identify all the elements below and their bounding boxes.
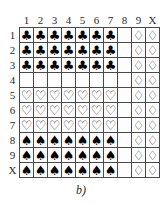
spade-suit-icon: ♠ xyxy=(104,134,117,147)
grid-cell-X-X: ♢ xyxy=(146,163,160,178)
spade-suit-icon: ♠ xyxy=(20,164,33,177)
grid-cell-4-3 xyxy=(48,73,62,88)
heart-suit-icon: ♡ xyxy=(90,89,103,102)
grid-cell-8-8 xyxy=(118,133,132,148)
club-suit-icon: ♣ xyxy=(76,44,89,57)
grid-cell-8-4: ♠ xyxy=(62,133,76,148)
heart-suit-icon: ♡ xyxy=(76,89,89,102)
column-header-2: 2 xyxy=(34,13,48,28)
grid-corner-cell xyxy=(6,13,20,28)
club-suit-icon: ♣ xyxy=(34,29,47,42)
grid-cell-1-6: ♣ xyxy=(90,28,104,43)
grid-cell-2-1: ♣ xyxy=(20,43,34,58)
grid-cell-4-1 xyxy=(20,73,34,88)
heart-suit-icon: ♡ xyxy=(104,119,117,132)
grid-cell-7-7: ♡ xyxy=(104,118,118,133)
heart-suit-icon: ♡ xyxy=(76,104,89,117)
grid-row: 7♡♡♡♡♡♡♡♢♢ xyxy=(6,118,160,133)
row-header-6: 6 xyxy=(6,103,20,118)
grid-cell-1-7: ♣ xyxy=(104,28,118,43)
grid-row: 1♣♣♣♣♣♣♣♢♢ xyxy=(6,28,160,43)
grid-cell-5-X: ♢ xyxy=(146,88,160,103)
grid-cell-9-5: ♠ xyxy=(76,148,90,163)
grid-cell-5-7: ♡ xyxy=(104,88,118,103)
grid-cell-4-5 xyxy=(76,73,90,88)
grid-cell-6-8 xyxy=(118,103,132,118)
heart-suit-icon: ♡ xyxy=(76,119,89,132)
heart-suit-icon: ♡ xyxy=(62,119,75,132)
diamond-suit-icon: ♢ xyxy=(132,134,145,147)
suit-grid-table: 123456789X 1♣♣♣♣♣♣♣♢♢2♣♣♣♣♣♣♣♢♢3♣♣♣♣♣♣♣♢… xyxy=(6,13,160,178)
spade-suit-icon: ♠ xyxy=(104,149,117,162)
grid-cell-8-5: ♠ xyxy=(76,133,90,148)
club-suit-icon: ♣ xyxy=(90,59,103,72)
diamond-suit-icon: ♢ xyxy=(132,44,145,57)
grid-cell-9-2: ♠ xyxy=(34,148,48,163)
spade-suit-icon: ♠ xyxy=(76,149,89,162)
row-header-X: X xyxy=(6,163,20,178)
diamond-suit-icon: ♢ xyxy=(132,164,145,177)
club-suit-icon: ♣ xyxy=(34,44,47,57)
grid-cell-4-7 xyxy=(104,73,118,88)
club-suit-icon: ♣ xyxy=(48,59,61,72)
diamond-suit-icon: ♢ xyxy=(132,119,145,132)
grid-cell-2-2: ♣ xyxy=(34,43,48,58)
spade-suit-icon: ♠ xyxy=(90,134,103,147)
grid-cell-3-6: ♣ xyxy=(90,58,104,73)
grid-cell-8-9: ♢ xyxy=(132,133,146,148)
grid-cell-6-3: ♡ xyxy=(48,103,62,118)
grid-row: 9♠♠♠♠♠♠♠♢♢ xyxy=(6,148,160,163)
grid-cell-6-5: ♡ xyxy=(76,103,90,118)
grid-cell-9-1: ♠ xyxy=(20,148,34,163)
spade-suit-icon: ♠ xyxy=(62,134,75,147)
grid-container: 123456789X 1♣♣♣♣♣♣♣♢♢2♣♣♣♣♣♣♣♢♢3♣♣♣♣♣♣♣♢… xyxy=(6,13,160,178)
row-header-4: 4 xyxy=(6,73,20,88)
grid-cell-1-2: ♣ xyxy=(34,28,48,43)
grid-cell-6-4: ♡ xyxy=(62,103,76,118)
grid-cell-6-7: ♡ xyxy=(104,103,118,118)
grid-cell-X-4: ♠ xyxy=(62,163,76,178)
heart-suit-icon: ♡ xyxy=(104,104,117,117)
diamond-suit-icon: ♢ xyxy=(132,29,145,42)
spade-suit-icon: ♠ xyxy=(34,164,47,177)
grid-cell-3-1: ♣ xyxy=(20,58,34,73)
grid-cell-X-6: ♠ xyxy=(90,163,104,178)
row-header-9: 9 xyxy=(6,148,20,163)
grid-cell-4-8 xyxy=(118,73,132,88)
grid-cell-1-1: ♣ xyxy=(20,28,34,43)
grid-cell-5-4: ♡ xyxy=(62,88,76,103)
club-suit-icon: ♣ xyxy=(48,29,61,42)
heart-suit-icon: ♡ xyxy=(34,89,47,102)
diamond-suit-icon: ♢ xyxy=(146,164,159,177)
grid-cell-9-8 xyxy=(118,148,132,163)
club-suit-icon: ♣ xyxy=(48,44,61,57)
spade-suit-icon: ♠ xyxy=(104,164,117,177)
grid-cell-4-9: ♢ xyxy=(132,73,146,88)
column-header-6: 6 xyxy=(90,13,104,28)
diamond-suit-icon: ♢ xyxy=(146,149,159,162)
grid-cell-7-6: ♡ xyxy=(90,118,104,133)
grid-cell-6-1: ♡ xyxy=(20,103,34,118)
grid-row: 5♡♡♡♡♡♡♡♢♢ xyxy=(6,88,160,103)
grid-cell-7-5: ♡ xyxy=(76,118,90,133)
heart-suit-icon: ♡ xyxy=(104,89,117,102)
grid-cell-4-4 xyxy=(62,73,76,88)
diamond-suit-icon: ♢ xyxy=(132,149,145,162)
grid-cell-9-X: ♢ xyxy=(146,148,160,163)
grid-cell-X-8 xyxy=(118,163,132,178)
grid-cell-2-6: ♣ xyxy=(90,43,104,58)
grid-cell-8-2: ♠ xyxy=(34,133,48,148)
grid-cell-X-7: ♠ xyxy=(104,163,118,178)
grid-cell-8-1: ♠ xyxy=(20,133,34,148)
grid-cell-3-5: ♣ xyxy=(76,58,90,73)
column-header-4: 4 xyxy=(62,13,76,28)
club-suit-icon: ♣ xyxy=(104,59,117,72)
grid-cell-5-5: ♡ xyxy=(76,88,90,103)
grid-cell-5-1: ♡ xyxy=(20,88,34,103)
column-header-8: 8 xyxy=(118,13,132,28)
grid-cell-2-X: ♢ xyxy=(146,43,160,58)
column-header-5: 5 xyxy=(76,13,90,28)
grid-cell-5-8 xyxy=(118,88,132,103)
column-header-3: 3 xyxy=(48,13,62,28)
spade-suit-icon: ♠ xyxy=(90,149,103,162)
